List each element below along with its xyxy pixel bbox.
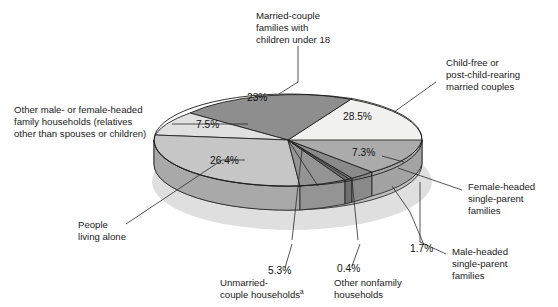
value-label-married-with-children: 23% xyxy=(247,92,267,103)
callout-line-3: children under 18 xyxy=(256,34,330,45)
callout-other-family-households: Other male- or female-headed family hous… xyxy=(14,104,146,139)
footnote-superscript: a xyxy=(300,288,304,295)
callout-married-with-children: Married-couple families with children un… xyxy=(256,10,330,45)
value-label-unmarried-couple: 5.3% xyxy=(268,265,291,276)
pie-chart-figure: 23% 28.5% 7.3% 1.7% 0.4% 5.3% 26.4% 7.5%… xyxy=(0,0,558,307)
value-label-female-headed-single: 7.3% xyxy=(352,147,375,158)
callout-line-1: Child-free or xyxy=(446,57,500,68)
callout-line-1: Male-headed xyxy=(452,246,508,257)
callout-line-1: Married-couple xyxy=(256,10,320,21)
value-label-child-free-married: 28.5% xyxy=(343,111,372,122)
callout-line-3: families xyxy=(452,270,485,281)
callout-female-headed-single: Female-headed single-parent families xyxy=(468,181,535,216)
callout-line-1: Other male- or female-headed xyxy=(14,104,143,115)
leader-child-free-married xyxy=(394,82,436,112)
callout-line-1: Other nonfamily xyxy=(334,277,402,288)
callout-unmarried-couple: Unmarried- couple householdsa xyxy=(220,277,304,300)
leader-married-with-children xyxy=(279,46,298,94)
callout-line-3: families xyxy=(468,205,501,216)
value-label-people-living-alone: 26.4% xyxy=(210,155,239,166)
callout-line-3: married couples xyxy=(446,81,514,92)
callout-line-3: other than spouses or children) xyxy=(14,128,146,139)
callout-line-2: families with xyxy=(256,22,308,33)
callout-other-nonfamily: Other nonfamily households xyxy=(334,277,402,300)
callout-male-headed-single: Male-headed single-parent families xyxy=(452,246,508,281)
callout-line-2: living alone xyxy=(78,231,126,242)
callout-line-2: post-child-rearing xyxy=(446,69,520,80)
pie-chart-svg: 23% 28.5% 7.3% 1.7% 0.4% 5.3% 26.4% 7.5%… xyxy=(0,0,558,307)
callout-line-2: single-parent xyxy=(468,193,524,204)
callout-line-2: family households (relatives xyxy=(14,116,133,127)
callout-line-2: single-parent xyxy=(452,258,508,269)
callout-line-1: People xyxy=(78,219,108,230)
value-label-other-nonfamily: 0.4% xyxy=(337,263,360,274)
callout-line-1: Unmarried- xyxy=(220,277,268,288)
callout-line-2: households xyxy=(334,289,383,300)
callout-line-2: couple householdsa xyxy=(220,288,304,300)
callout-people-living-alone: People living alone xyxy=(78,219,126,242)
value-label-male-headed-single: 1.7% xyxy=(410,243,433,254)
callout-child-free-married: Child-free or post-child-rearing married… xyxy=(446,57,520,92)
callout-line-2-text: couple households xyxy=(220,289,300,300)
value-label-other-family-households: 7.5% xyxy=(196,119,219,130)
callout-line-1: Female-headed xyxy=(468,181,535,192)
